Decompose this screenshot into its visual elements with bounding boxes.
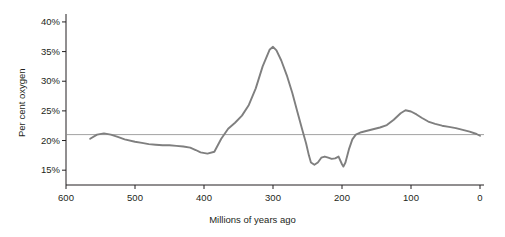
x-axis-tick-label: 400 [184, 192, 224, 203]
x-axis-tick-label: 200 [322, 192, 362, 203]
x-axis-tick-label: 100 [391, 192, 431, 203]
x-axis-title: Millions of years ago [0, 214, 505, 225]
oxygen-over-time-chart: Per cent oxygen Millions of years ago 15… [0, 0, 505, 237]
x-axis-tick-label: 0 [460, 192, 500, 203]
oxygen-curve [90, 47, 480, 167]
y-axis-tick-label: 35% [22, 46, 60, 57]
y-axis-tick-label: 25% [22, 105, 60, 116]
x-axis-tick-label: 300 [253, 192, 293, 203]
y-axis-tick-label: 15% [22, 164, 60, 175]
x-axis-tick-label: 600 [46, 192, 86, 203]
y-axis-tick-label: 30% [22, 75, 60, 86]
y-axis-tick-label: 40% [22, 16, 60, 27]
y-axis-tick-label: 20% [22, 135, 60, 146]
x-axis-tick-label: 500 [115, 192, 155, 203]
